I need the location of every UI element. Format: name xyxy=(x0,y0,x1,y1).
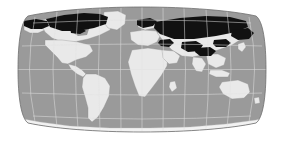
world-map-figure xyxy=(0,0,282,150)
land-new-zealand xyxy=(254,97,260,104)
graticule-layer xyxy=(18,7,266,132)
world-map-svg xyxy=(0,0,282,150)
